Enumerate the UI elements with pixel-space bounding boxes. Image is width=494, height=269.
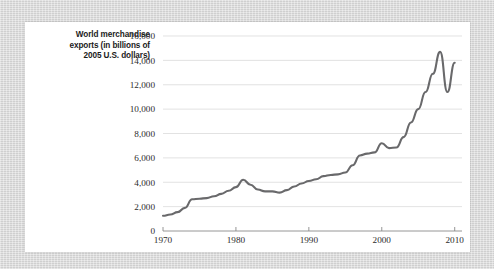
x-tick-label: 1990 bbox=[300, 235, 319, 245]
y-tick-label: 16,000 bbox=[130, 31, 156, 41]
y-tick-label: 8,000 bbox=[134, 129, 155, 139]
x-tick-label: 2000 bbox=[373, 235, 392, 245]
y-tick-label: 14,000 bbox=[130, 56, 156, 66]
chart-plot-area: 02,0004,0006,0008,00010,00012,00014,0001… bbox=[25, 22, 470, 252]
y-tick-label: 10,000 bbox=[130, 104, 156, 114]
x-tick-label: 1980 bbox=[227, 235, 246, 245]
x-tick-label: 2010 bbox=[446, 235, 465, 245]
x-tick-labels-group: 19701980199020002010 bbox=[154, 235, 464, 245]
x-axis-group bbox=[163, 227, 462, 231]
y-tick-label: 2,000 bbox=[134, 202, 155, 212]
y-tick-label: 6,000 bbox=[134, 153, 155, 163]
y-tick-labels-group: 02,0004,0006,0008,00010,00012,00014,0001… bbox=[130, 31, 156, 236]
x-tick-label: 1970 bbox=[154, 235, 173, 245]
line-chart-figure: World merchandise exports (in billions o… bbox=[25, 22, 470, 252]
y-tick-label: 4,000 bbox=[134, 178, 155, 188]
y-tick-label: 12,000 bbox=[130, 80, 156, 90]
figure-card: World merchandise exports (in billions o… bbox=[25, 22, 470, 252]
